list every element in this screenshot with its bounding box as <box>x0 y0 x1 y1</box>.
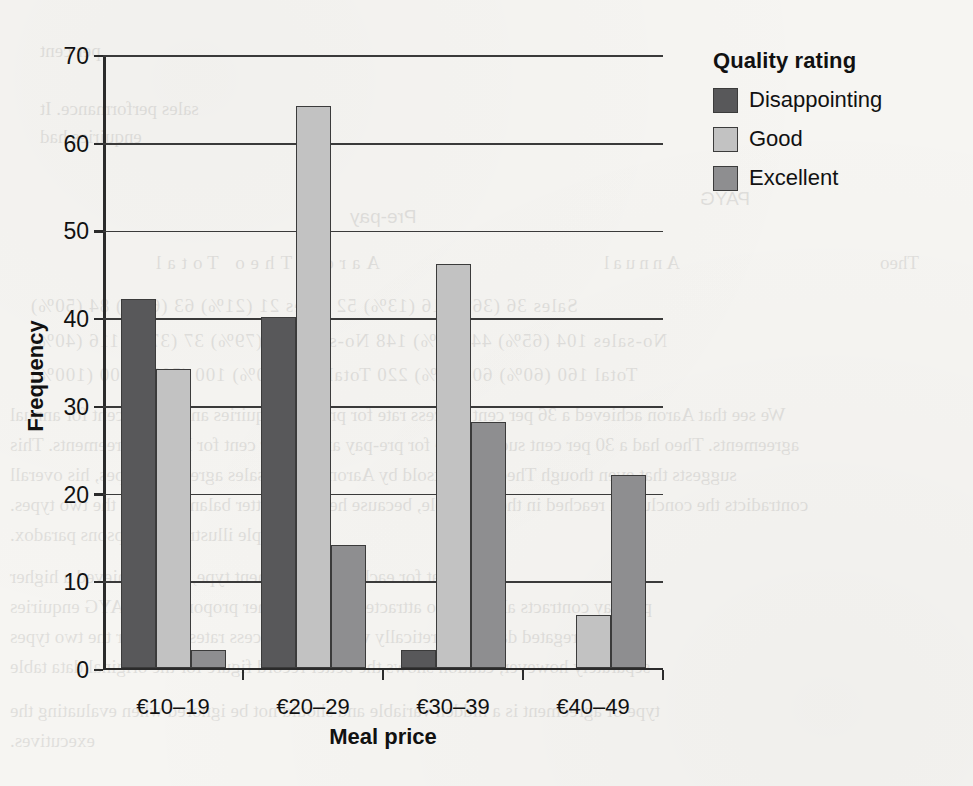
grouped-bar-chart: 010203040506070 €10–19€20–29€30–39€40–49… <box>0 0 973 786</box>
y-axis-tick-label: 0 <box>76 657 89 684</box>
x-axis-tick <box>522 670 524 680</box>
y-axis-tick <box>94 230 103 232</box>
bar <box>401 650 436 668</box>
x-axis-title: Meal price <box>103 724 663 750</box>
y-axis-tick-label: 60 <box>63 130 89 157</box>
y-axis-tick <box>94 493 103 495</box>
plot-area: 010203040506070 €10–19€20–29€30–39€40–49 <box>103 56 663 670</box>
y-axis-tick <box>94 581 103 583</box>
legend-item[interactable]: Excellent <box>713 165 953 191</box>
legend-items-group: DisappointingGoodExcellent <box>713 87 953 191</box>
x-axis-tick-label: €20–29 <box>276 694 349 720</box>
legend-item[interactable]: Disappointing <box>713 87 953 113</box>
y-axis-tick <box>94 143 103 145</box>
legend-item-label: Excellent <box>749 165 838 191</box>
y-axis-tick-label: 30 <box>63 393 89 420</box>
y-axis-tick-label: 20 <box>63 481 89 508</box>
y-axis-tick-label: 70 <box>63 43 89 70</box>
x-axis-tick <box>242 670 244 680</box>
bar <box>611 475 646 668</box>
gridline <box>103 55 663 57</box>
y-axis-tick <box>94 318 103 320</box>
gridline <box>103 143 663 145</box>
y-axis-tick <box>94 55 103 57</box>
y-axis-tick <box>94 669 103 671</box>
bar <box>436 264 471 667</box>
x-axis-tick-label: €40–49 <box>556 694 629 720</box>
bar <box>471 422 506 668</box>
legend: Quality rating DisappointingGoodExcellen… <box>713 48 953 204</box>
y-axis-line <box>103 56 106 670</box>
legend-swatch-icon <box>713 127 738 152</box>
x-axis-tick-label: €10–19 <box>136 694 209 720</box>
y-axis-title: Frequency <box>23 276 49 476</box>
bar <box>261 317 296 668</box>
legend-swatch-icon <box>713 88 738 113</box>
legend-item-label: Good <box>749 126 803 152</box>
legend-title: Quality rating <box>713 48 953 74</box>
x-axis-tick-label: €30–39 <box>416 694 489 720</box>
x-axis-tick <box>382 670 384 680</box>
bar <box>296 106 331 667</box>
bar <box>156 369 191 667</box>
bar <box>191 650 226 668</box>
y-axis-tick <box>94 406 103 408</box>
bar <box>121 299 156 667</box>
legend-item[interactable]: Good <box>713 126 953 152</box>
legend-item-label: Disappointing <box>749 87 882 113</box>
y-axis-tick-label: 40 <box>63 306 89 333</box>
x-axis-tick <box>662 670 664 680</box>
gridline <box>103 318 663 320</box>
legend-swatch-icon <box>713 166 738 191</box>
y-axis-tick-label: 50 <box>63 218 89 245</box>
y-axis-tick-label: 10 <box>63 569 89 596</box>
gridline <box>103 231 663 233</box>
bar <box>576 615 611 668</box>
bar <box>331 545 366 668</box>
